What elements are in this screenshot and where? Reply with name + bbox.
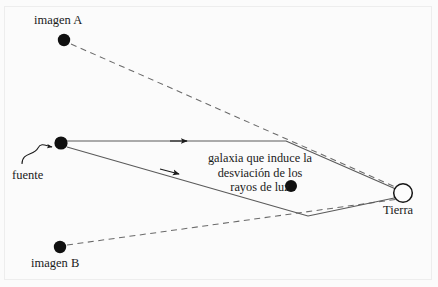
galaxy-caption-line-2: desviación de los bbox=[196, 166, 324, 181]
imagen-b-dot bbox=[54, 241, 66, 253]
tierra-circle bbox=[394, 184, 413, 203]
galaxy-caption-line-1: galaxia que induce la bbox=[196, 151, 324, 166]
diagram-canvas bbox=[0, 0, 438, 287]
fuente-dot bbox=[54, 136, 67, 149]
label-imagen-b: imagen B bbox=[31, 256, 79, 271]
fuente-pointer bbox=[22, 145, 52, 164]
label-fuente: fuente bbox=[12, 168, 43, 183]
label-imagen-a: imagen A bbox=[34, 13, 82, 28]
galaxy-caption-line-3: rayos de luz bbox=[196, 180, 324, 195]
lensing-diagram-figure: imagen A imagen B fuente Tierra galaxia … bbox=[0, 0, 438, 287]
imagen-a-dot bbox=[58, 34, 70, 46]
ray-lower-arrowhead bbox=[160, 169, 179, 174]
sightline-imagen-b bbox=[67, 199, 399, 245]
label-galaxia-caption: galaxia que induce la desviación de los … bbox=[196, 151, 324, 195]
label-tierra: Tierra bbox=[383, 203, 413, 218]
